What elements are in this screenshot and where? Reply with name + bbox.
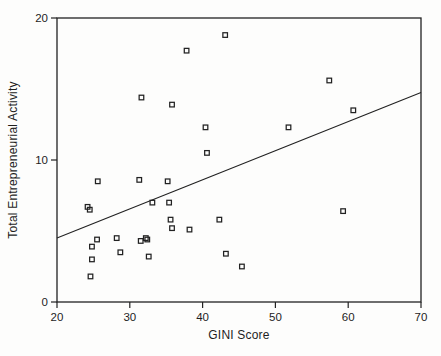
data-point-marker <box>170 226 175 231</box>
data-point-marker <box>168 217 173 222</box>
data-point-marker <box>137 178 142 183</box>
x-tick-label: 30 <box>123 311 136 323</box>
x-tick-label: 70 <box>415 311 428 323</box>
data-point-marker <box>118 250 123 255</box>
data-point-marker <box>327 78 332 83</box>
data-point-marker <box>223 33 228 38</box>
data-point-marker <box>146 254 151 259</box>
x-tick-label: 40 <box>196 311 209 323</box>
data-point-marker <box>139 95 144 100</box>
data-point-marker <box>165 179 170 184</box>
x-axis-title: GINI Score <box>57 328 421 342</box>
data-point-marker <box>341 209 346 214</box>
y-tick-label: 0 <box>42 296 48 308</box>
x-tick-label: 60 <box>342 311 355 323</box>
data-point-marker <box>145 237 150 242</box>
data-point-marker <box>184 48 189 53</box>
trend-line <box>57 93 421 239</box>
data-point-marker <box>170 102 175 107</box>
y-tick-label: 10 <box>35 154 48 166</box>
data-point-marker <box>240 264 245 269</box>
data-point-marker <box>351 108 356 113</box>
x-tick-label: 50 <box>269 311 282 323</box>
data-point-marker <box>90 244 95 249</box>
data-point-marker <box>138 239 143 244</box>
data-point-marker <box>95 237 100 242</box>
plot-frame <box>57 18 421 302</box>
y-tick-label: 20 <box>35 12 48 24</box>
scatter-plot-figure: 20304050607001020 GINI Score Total Entre… <box>0 0 441 356</box>
data-point-marker <box>167 200 172 205</box>
data-point-marker <box>224 251 229 256</box>
data-point-marker <box>217 217 222 222</box>
data-point-marker <box>286 125 291 130</box>
data-point-marker <box>95 179 100 184</box>
data-point-marker <box>144 236 149 241</box>
data-point-marker <box>205 151 210 156</box>
x-tick-label: 20 <box>51 311 64 323</box>
data-point-marker <box>187 227 192 232</box>
scatter-plot-canvas: 20304050607001020 <box>0 0 441 356</box>
data-point-marker <box>203 125 208 130</box>
data-point-marker <box>90 257 95 262</box>
y-axis-title: Total Entrepreneurial Activity <box>6 10 22 310</box>
data-point-marker <box>114 236 119 241</box>
data-point-marker <box>88 274 93 279</box>
